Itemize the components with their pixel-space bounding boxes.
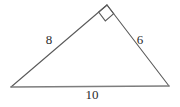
side-label-left-leg: 8 — [46, 32, 53, 47]
side-label-base: 10 — [86, 87, 99, 102]
triangle-diagram-svg: 8 6 10 — [0, 0, 180, 107]
geometry-figure: 8 6 10 — [0, 0, 180, 107]
side-label-right-leg: 6 — [137, 32, 144, 47]
